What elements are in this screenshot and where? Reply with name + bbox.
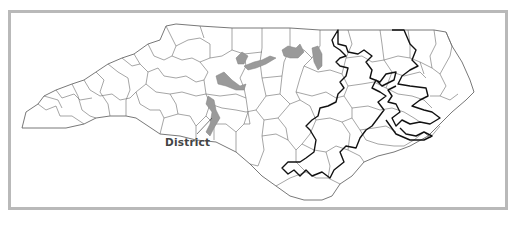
shaded-district-segment	[206, 96, 220, 136]
shaded-district-segment	[312, 46, 322, 70]
nc-map	[0, 0, 518, 226]
district-label: District	[165, 136, 210, 148]
outlined-district-east	[388, 30, 440, 126]
shaded-district-segment	[282, 44, 304, 58]
shaded-district-segment	[244, 56, 276, 70]
